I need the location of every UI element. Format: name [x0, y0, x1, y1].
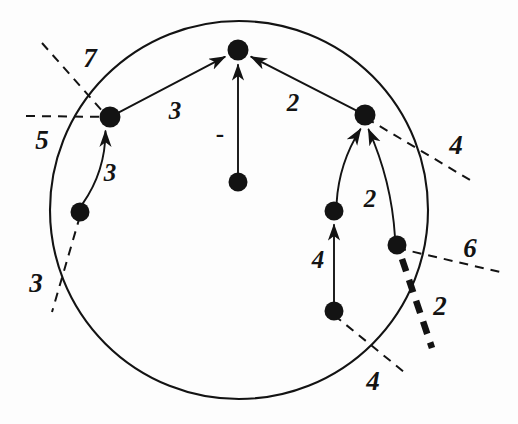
left-lower-node[interactable] [71, 203, 90, 222]
cut-weight-label-c_4_bottom: 4 [366, 368, 380, 395]
right-lower-node[interactable] [325, 302, 344, 321]
cut-line-5 [26, 116, 112, 117]
top-node[interactable] [228, 40, 249, 61]
left-upper-node[interactable] [100, 107, 121, 128]
edge-left-lower-to-left-upper [83, 131, 106, 204]
cut-line-4-bottom [334, 315, 404, 372]
cut-line-6 [397, 248, 500, 272]
cut-line-7 [42, 43, 112, 122]
diagram-canvas [0, 0, 518, 424]
cut-line-3 [52, 216, 80, 312]
cut-weight-label-c_4_right: 4 [449, 132, 463, 159]
cut-weight-label-c_5: 5 [35, 127, 49, 154]
edge-right-outer-to-right-upper [369, 130, 395, 237]
edge-weight-label-e1: 3 [169, 98, 182, 123]
right-middle-node[interactable] [325, 202, 344, 221]
cut-weight-label-c_6: 6 [463, 235, 477, 262]
figure-root: 32-3247534624 [0, 0, 518, 424]
center-node[interactable] [229, 173, 248, 192]
cut-weight-label-c_3: 3 [29, 270, 43, 297]
edge-right-upper-to-top [251, 57, 356, 111]
right-outer-node[interactable] [388, 236, 407, 255]
edge-weight-label-e6: 2 [364, 186, 377, 211]
edge-right-middle-to-right-upper [337, 129, 361, 203]
edge-weight-label-e3: - [216, 121, 224, 146]
edge-weight-label-e7: 4 [312, 247, 325, 272]
edge-weight-label-e2: 2 [287, 90, 300, 115]
right-upper-node[interactable] [355, 105, 376, 126]
cut-weight-label-c_7: 7 [83, 45, 97, 72]
cut-weight-label-c_2_thick: 2 [433, 293, 447, 320]
edge-weight-label-e4: 3 [104, 160, 117, 185]
